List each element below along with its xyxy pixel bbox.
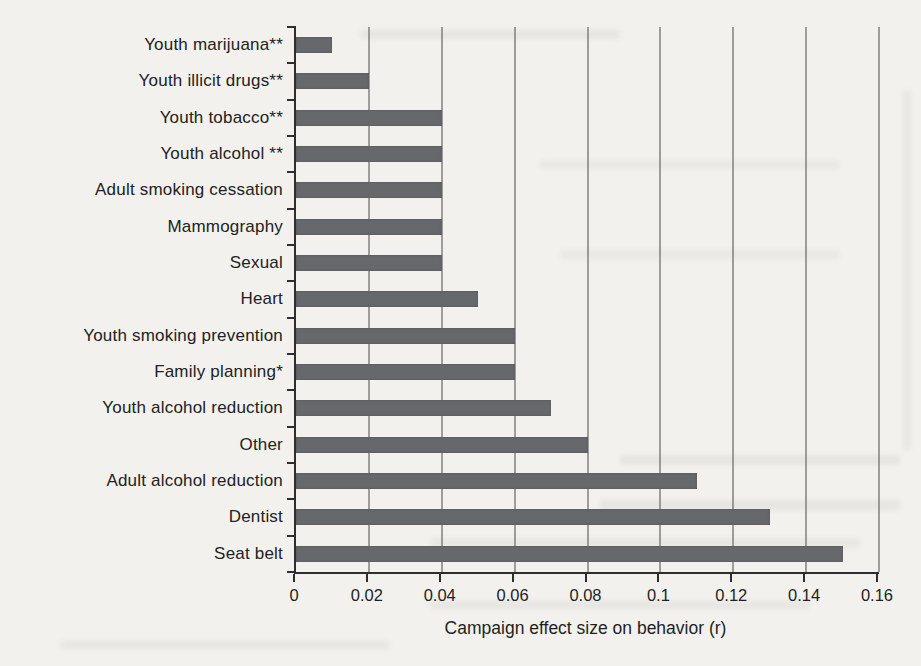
y-tick <box>287 462 296 464</box>
x-tick <box>803 574 805 582</box>
bar-youth-tobacco <box>296 110 442 126</box>
bar-row <box>296 63 879 99</box>
category-label-heart: Heart <box>0 281 283 317</box>
x-tick-label: 0.02 <box>351 586 383 605</box>
category-label-mammography: Mammography <box>0 209 283 245</box>
bar-row <box>296 27 879 63</box>
x-tick-label: 0.06 <box>497 586 529 605</box>
bar-seat-belt <box>296 546 843 562</box>
y-tick <box>287 62 296 64</box>
y-tick <box>287 317 296 319</box>
x-axis-title: Campaign effect size on behavior (r) <box>294 618 877 639</box>
category-label-youth-marijuana: Youth marijuana** <box>0 27 283 63</box>
bars-layer <box>296 27 879 572</box>
x-tick-label: 0 <box>289 586 298 605</box>
bar-youth-illicit-drugs <box>296 73 369 89</box>
bar-dentist <box>296 509 770 525</box>
category-label-family-planning: Family planning* <box>0 354 283 390</box>
x-axis: 00.020.040.060.080.10.120.140.16 <box>294 574 877 614</box>
scan-artifact <box>903 90 911 450</box>
bar-other <box>296 437 588 453</box>
x-tick <box>657 574 659 582</box>
bar-youth-alcohol <box>296 146 442 162</box>
bar-adult-smoking-cessation <box>296 182 442 198</box>
category-label-adult-smoking-cessation: Adult smoking cessation <box>0 172 283 208</box>
bar-row <box>296 281 879 317</box>
bar-mammography <box>296 219 442 235</box>
category-label-adult-alcohol-reduction: Adult alcohol reduction <box>0 463 283 499</box>
category-label-other: Other <box>0 427 283 463</box>
y-tick <box>287 208 296 210</box>
bar-family-planning <box>296 364 515 380</box>
bar-row <box>296 100 879 136</box>
bar-row <box>296 318 879 354</box>
bar-adult-alcohol-reduction <box>296 473 697 489</box>
x-tick <box>366 574 368 582</box>
x-tick-label: 0.16 <box>861 586 893 605</box>
x-tick <box>730 574 732 582</box>
category-label-dentist: Dentist <box>0 499 283 535</box>
bar-row <box>296 536 879 572</box>
scanned-book-page: Youth marijuana**Youth illicit drugs**Yo… <box>0 0 921 666</box>
category-label-youth-alcohol: Youth alcohol ** <box>0 136 283 172</box>
bar-row <box>296 136 879 172</box>
x-tick-label: 0.04 <box>424 586 456 605</box>
x-tick-label: 0.1 <box>647 586 670 605</box>
y-tick <box>287 171 296 173</box>
category-label-youth-tobacco: Youth tobacco** <box>0 100 283 136</box>
category-label-youth-smoking-prevention: Youth smoking prevention <box>0 318 283 354</box>
y-tick <box>287 135 296 137</box>
category-labels: Youth marijuana**Youth illicit drugs**Yo… <box>0 27 283 572</box>
category-label-youth-alcohol-reduction: Youth alcohol reduction <box>0 390 283 426</box>
x-tick <box>585 574 587 582</box>
bar-row <box>296 390 879 426</box>
y-tick <box>287 498 296 500</box>
category-label-sexual: Sexual <box>0 245 283 281</box>
y-tick <box>287 99 296 101</box>
x-tick <box>293 574 295 582</box>
bar-row <box>296 463 879 499</box>
x-tick <box>439 574 441 582</box>
y-tick <box>287 244 296 246</box>
bar-row <box>296 427 879 463</box>
y-tick <box>287 535 296 537</box>
category-label-youth-illicit-drugs: Youth illicit drugs** <box>0 63 283 99</box>
x-tick <box>876 574 878 582</box>
bar-row <box>296 172 879 208</box>
category-label-seat-belt: Seat belt <box>0 536 283 572</box>
y-tick <box>287 426 296 428</box>
bar-row <box>296 245 879 281</box>
bar-youth-smoking-prevention <box>296 328 515 344</box>
bar-heart <box>296 291 478 307</box>
scan-artifact <box>60 640 390 650</box>
y-tick <box>287 26 296 28</box>
bar-row <box>296 499 879 535</box>
bar-row <box>296 354 879 390</box>
y-tick <box>287 571 296 573</box>
x-tick-label: 0.14 <box>788 586 820 605</box>
y-tick <box>287 389 296 391</box>
y-tick <box>287 353 296 355</box>
bar-youth-marijuana <box>296 37 332 53</box>
x-tick <box>512 574 514 582</box>
x-tick-label: 0.12 <box>715 586 747 605</box>
bar-youth-alcohol-reduction <box>296 400 551 416</box>
x-tick-label: 0.08 <box>569 586 601 605</box>
plot-area <box>294 27 879 574</box>
bar-sexual <box>296 255 442 271</box>
bar-row <box>296 209 879 245</box>
y-tick <box>287 280 296 282</box>
